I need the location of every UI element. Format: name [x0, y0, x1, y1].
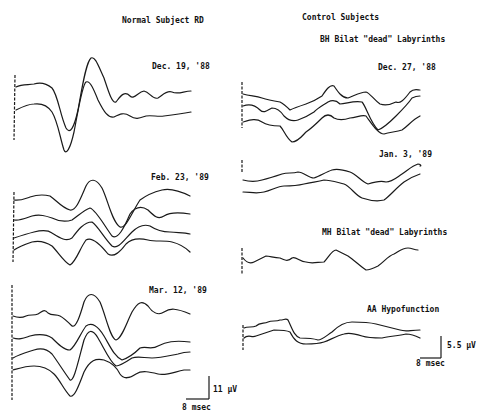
dec-27-traces — [242, 82, 420, 142]
aa-traces — [243, 319, 420, 350]
left-scale-bar — [186, 376, 209, 399]
feb-23-axis-marker — [13, 192, 14, 262]
aa-trace-1 — [244, 319, 420, 340]
feb-23-trace-2 — [14, 207, 190, 236]
dec-19-traces — [14, 58, 191, 152]
mh-traces — [242, 248, 418, 275]
waveform-traces — [0, 0, 483, 418]
evoked-potential-figure: Normal Subject RD Control Subjects BH Bi… — [0, 0, 483, 418]
dec-27-trace-1 — [243, 86, 420, 110]
dec-19-trace-1 — [16, 58, 191, 131]
mar-12-trace-4 — [13, 359, 190, 396]
mar-12-traces — [12, 285, 190, 400]
dec-19-axis-marker — [14, 75, 15, 140]
mar-12-trace-2 — [13, 324, 190, 360]
feb-23-trace-1 — [14, 180, 190, 227]
feb-23-traces — [13, 180, 190, 265]
jan-3-traces — [242, 160, 421, 201]
feb-23-trace-3 — [14, 222, 190, 247]
right-scale-bar — [420, 336, 441, 358]
mar-12-trace-3 — [13, 331, 190, 380]
dec-19-trace-2 — [16, 82, 191, 152]
mh-trace-1 — [243, 248, 418, 270]
feb-23-trace-4 — [14, 239, 190, 265]
